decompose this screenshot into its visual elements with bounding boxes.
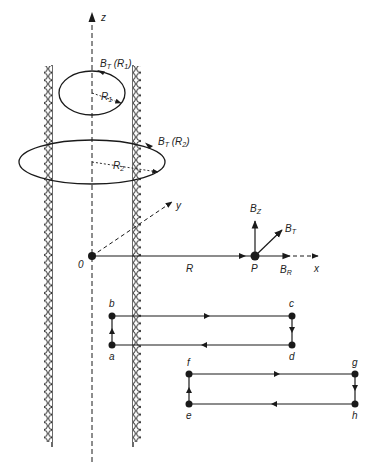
x-axis xyxy=(92,253,318,259)
br-label: BR xyxy=(280,265,292,276)
loop-direction-arrow-icon xyxy=(145,143,153,150)
bt-symbol: B xyxy=(285,223,292,234)
origin-point xyxy=(88,252,96,260)
y-axis xyxy=(92,202,172,256)
field-arg-close: ) xyxy=(186,136,189,147)
corner-label-h: h xyxy=(352,411,358,421)
point-p-label: P xyxy=(251,264,258,274)
bz-symbol: B xyxy=(250,203,257,214)
br-symbol: B xyxy=(280,264,287,275)
rect-loop-efgh xyxy=(186,371,359,408)
corner-label-b: b xyxy=(109,299,115,309)
corner-label-c: c xyxy=(289,299,294,309)
radius-subscript: 1 xyxy=(108,96,112,103)
bt-label: BT xyxy=(285,224,296,235)
solenoid-wall-left xyxy=(44,65,52,447)
field-subscript: T xyxy=(165,141,169,148)
point-p-vectors xyxy=(251,221,283,261)
corner-label-e: e xyxy=(186,411,192,421)
corner-label-a: a xyxy=(109,352,115,362)
loop-direction-arrow-icon xyxy=(97,70,105,75)
origin-label: 0 xyxy=(78,260,84,270)
br-subscript: R xyxy=(287,269,292,276)
z-axis-label: z xyxy=(101,13,106,23)
x-axis-label: x xyxy=(314,264,319,274)
bt-subscript: T xyxy=(292,228,296,235)
bz-label: BZ xyxy=(250,204,261,215)
radial-axis-label: R xyxy=(186,264,193,274)
z-axis xyxy=(89,12,96,462)
corner-label-f: f xyxy=(187,358,190,368)
corner-label-d: d xyxy=(289,352,295,362)
field-arg-close: ) xyxy=(128,58,131,69)
corner-label-g: g xyxy=(352,358,358,368)
solenoid-diagram xyxy=(0,0,376,476)
field-arg: (R xyxy=(172,136,183,147)
field-symbol: B xyxy=(158,136,165,147)
radius-label-r2: R2 xyxy=(113,161,124,172)
y-axis-label: y xyxy=(176,201,181,211)
field-symbol: B xyxy=(100,58,107,69)
field-arg: (R xyxy=(114,58,125,69)
field-label-r1: BT (R1) xyxy=(100,59,132,70)
bz-subscript: Z xyxy=(257,208,261,215)
radius-label-r1: R1 xyxy=(101,92,112,103)
field-subscript: T xyxy=(107,63,111,70)
radius-subscript: 2 xyxy=(120,165,124,172)
field-label-r2: BT (R2) xyxy=(158,137,190,148)
